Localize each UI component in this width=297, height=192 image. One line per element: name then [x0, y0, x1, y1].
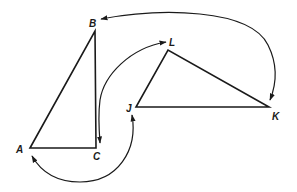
vertex-label-l: L: [169, 37, 175, 48]
arc-l-c-arrow: [99, 42, 166, 143]
triangle-abc: [30, 31, 96, 148]
vertex-label-a: A: [15, 144, 23, 155]
vertex-label-k: K: [272, 111, 280, 122]
vertex-label-j: J: [126, 103, 132, 114]
triangle-correspondence-diagram: A B C J K L: [0, 0, 297, 192]
triangle-jkl: [136, 50, 269, 107]
vertex-label-b: B: [89, 18, 96, 29]
arc-b-k-arrow: [101, 13, 275, 100]
vertex-label-c: C: [93, 151, 101, 162]
